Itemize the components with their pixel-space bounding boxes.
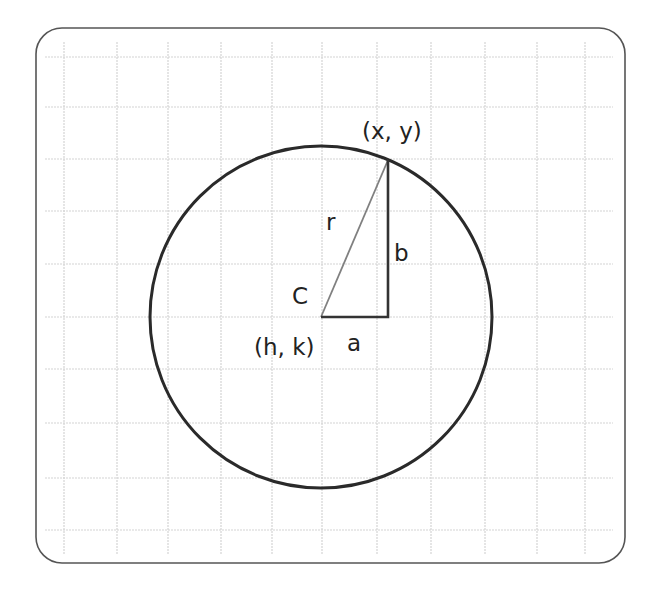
circle-equation-diagram: (x, y) r b C (h, k) a bbox=[0, 0, 657, 590]
center-coords-label: (h, k) bbox=[254, 334, 314, 360]
horizontal-leg-label: a bbox=[347, 330, 361, 356]
point-label: (x, y) bbox=[362, 118, 422, 144]
center-letter-label: C bbox=[292, 283, 308, 309]
radius-label: r bbox=[326, 209, 336, 235]
vertical-leg-label: b bbox=[394, 240, 409, 266]
